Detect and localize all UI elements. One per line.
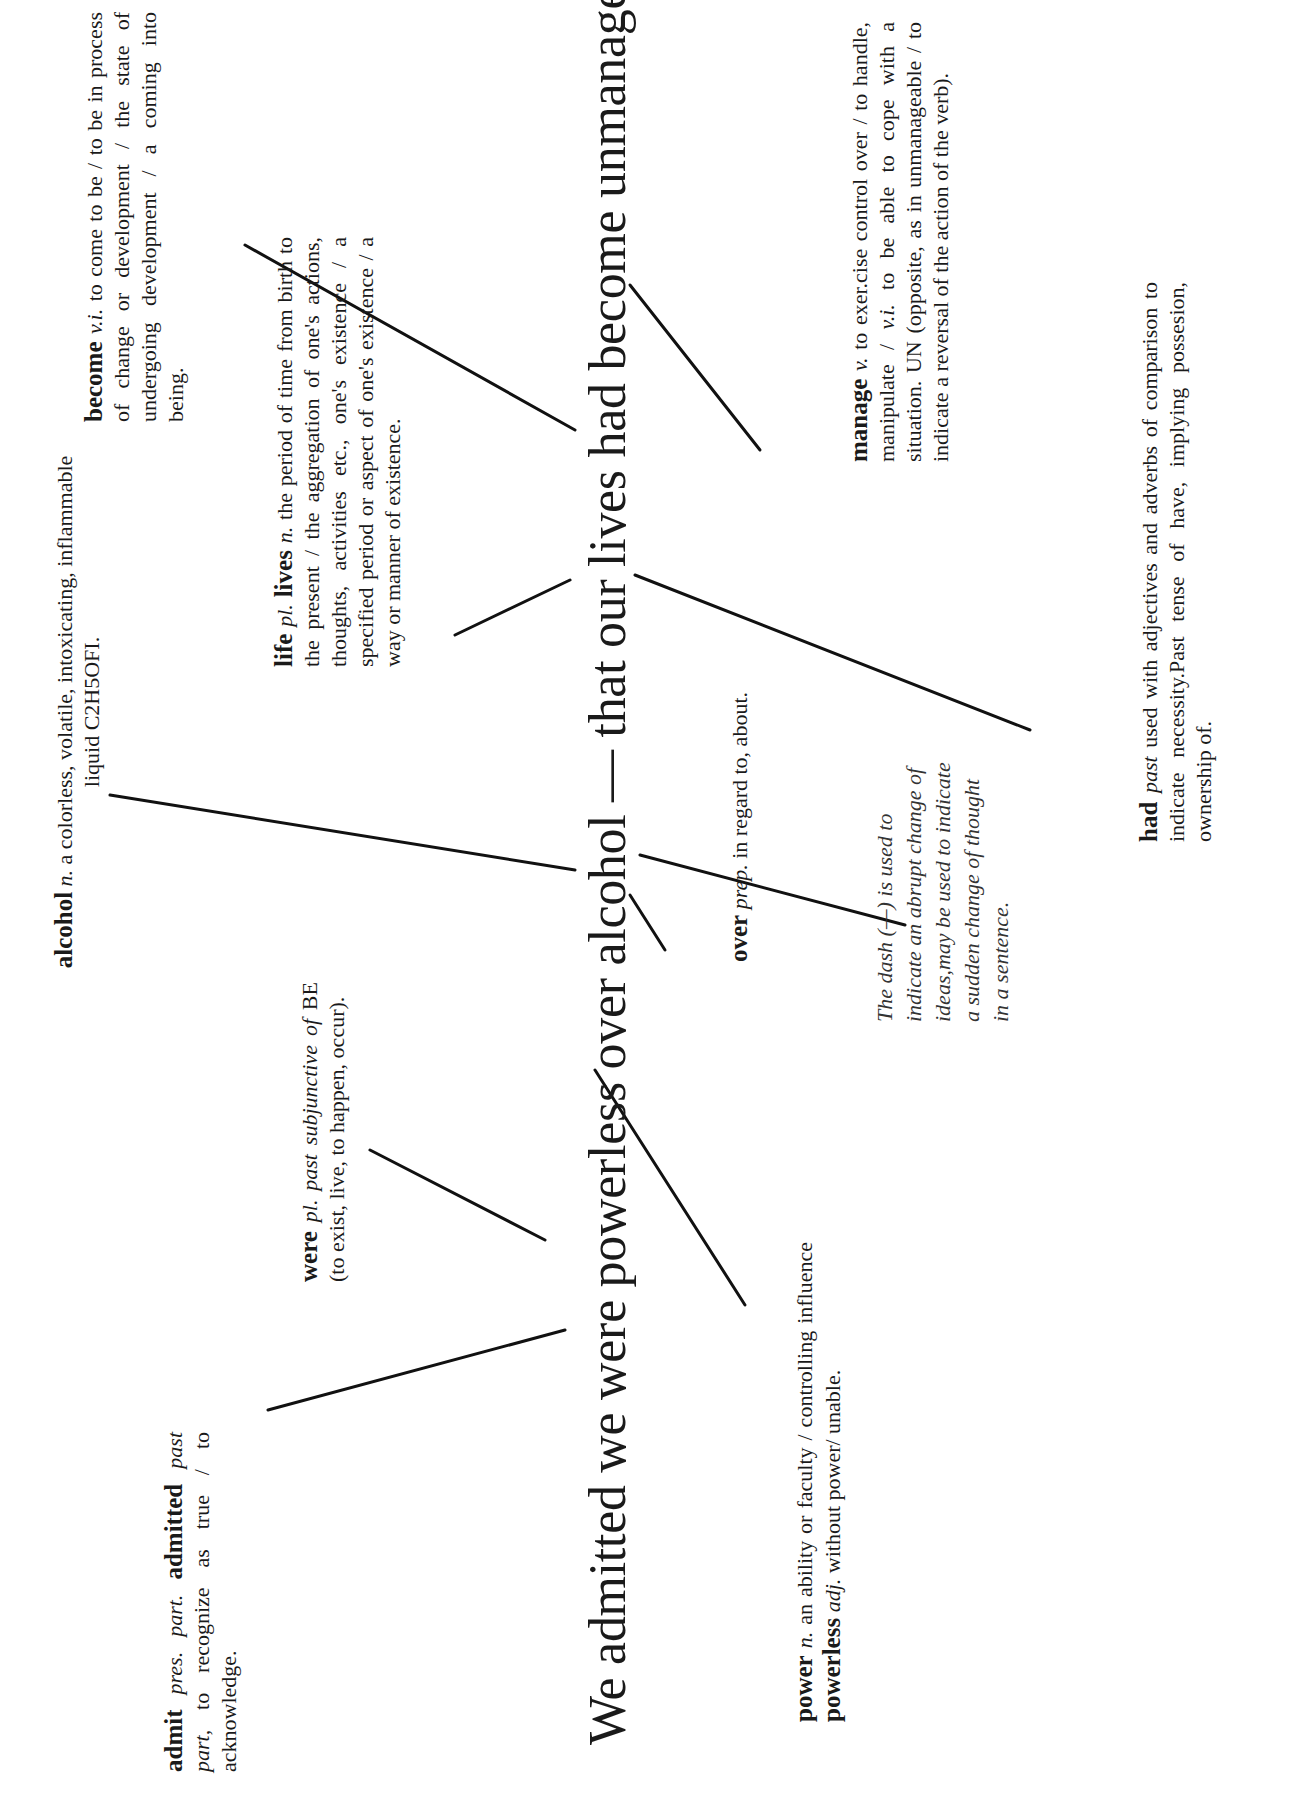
- connector-alcohol: [110, 795, 575, 870]
- pos-admit: pres. part.: [162, 1595, 187, 1695]
- definition-text-power-1: an ability or faculty / controlling infl…: [792, 1242, 817, 1625]
- definition-text-alcohol: a colorless, volatile, intoxicating, inf…: [52, 456, 104, 865]
- pos-lives: n.: [272, 527, 297, 544]
- connector-manage: [630, 285, 760, 450]
- connector-had: [635, 575, 1030, 730]
- definition-text-power-2: without power/ unable.: [820, 1370, 845, 1573]
- headword-lives: lives: [270, 550, 297, 597]
- connector-admit: [268, 1330, 565, 1410]
- headword-become: become: [80, 341, 107, 422]
- connector-life: [455, 580, 570, 635]
- definition-power: power n. an ability or faculty / control…: [790, 1242, 846, 1722]
- dash-note: The dash (—) is used to indicate an abru…: [870, 762, 1015, 1022]
- pos-were: pl. past subjunctive of: [297, 1019, 322, 1222]
- pos-manage: v.: [847, 357, 872, 371]
- definition-were: were pl. past subjunctive of BE (to exis…: [295, 982, 350, 1282]
- headword-were: were: [295, 1231, 322, 1282]
- main-sentence: We admitted we were powerless over alcoh…: [578, 0, 638, 1745]
- connector-were: [370, 1150, 545, 1240]
- definition-life: life pl. lives n. the period of time fro…: [270, 237, 406, 667]
- definition-become: become v.i. to come to be / to be in pro…: [80, 12, 189, 422]
- definition-over: over prep. in regard to, about.: [725, 502, 753, 962]
- definition-had: had past used with adjectives and adverb…: [1135, 282, 1217, 842]
- definition-alcohol: alcohol n. a colorless, volatile, intoxi…: [50, 452, 105, 972]
- headword-power: power: [790, 1655, 817, 1722]
- headword-had: had: [1135, 802, 1162, 842]
- pos-over: prep.: [727, 864, 752, 909]
- headword-admit: admit: [160, 1710, 187, 1773]
- pos-alcohol: n.: [52, 870, 77, 887]
- definition-text-over: in regard to, about.: [727, 692, 752, 859]
- connector-dash: [640, 855, 905, 925]
- diagram-canvas: We admitted we were powerless over alcoh…: [0, 0, 1291, 1802]
- pos-life: pl.: [272, 604, 297, 627]
- pos-manage-vi: v.i.: [874, 304, 899, 329]
- headword-alcohol: alcohol: [50, 892, 77, 968]
- headword-life: life: [270, 634, 297, 667]
- pos-power: n.: [792, 1632, 817, 1649]
- definition-text-life: the period of time from birth to the pre…: [272, 237, 405, 667]
- definition-admit: admit pres. part. admitted past part, to…: [160, 1432, 242, 1772]
- dash-note-text: The dash (—) is used to indicate an abru…: [872, 762, 1013, 1022]
- definition-text-admit: to recognize as true / to acknowledge.: [189, 1432, 241, 1772]
- pos-had: past: [1137, 756, 1162, 793]
- pos-become: v.i.: [82, 309, 107, 334]
- headword-admitted: admitted: [160, 1484, 187, 1580]
- headword-over: over: [725, 915, 752, 962]
- headword-manage: manage: [845, 379, 872, 462]
- pos-powerless: adj.: [820, 1579, 845, 1613]
- definition-manage: manage v. to exer.cise control over / to…: [845, 22, 954, 462]
- headword-powerless: powerless: [818, 1618, 845, 1722]
